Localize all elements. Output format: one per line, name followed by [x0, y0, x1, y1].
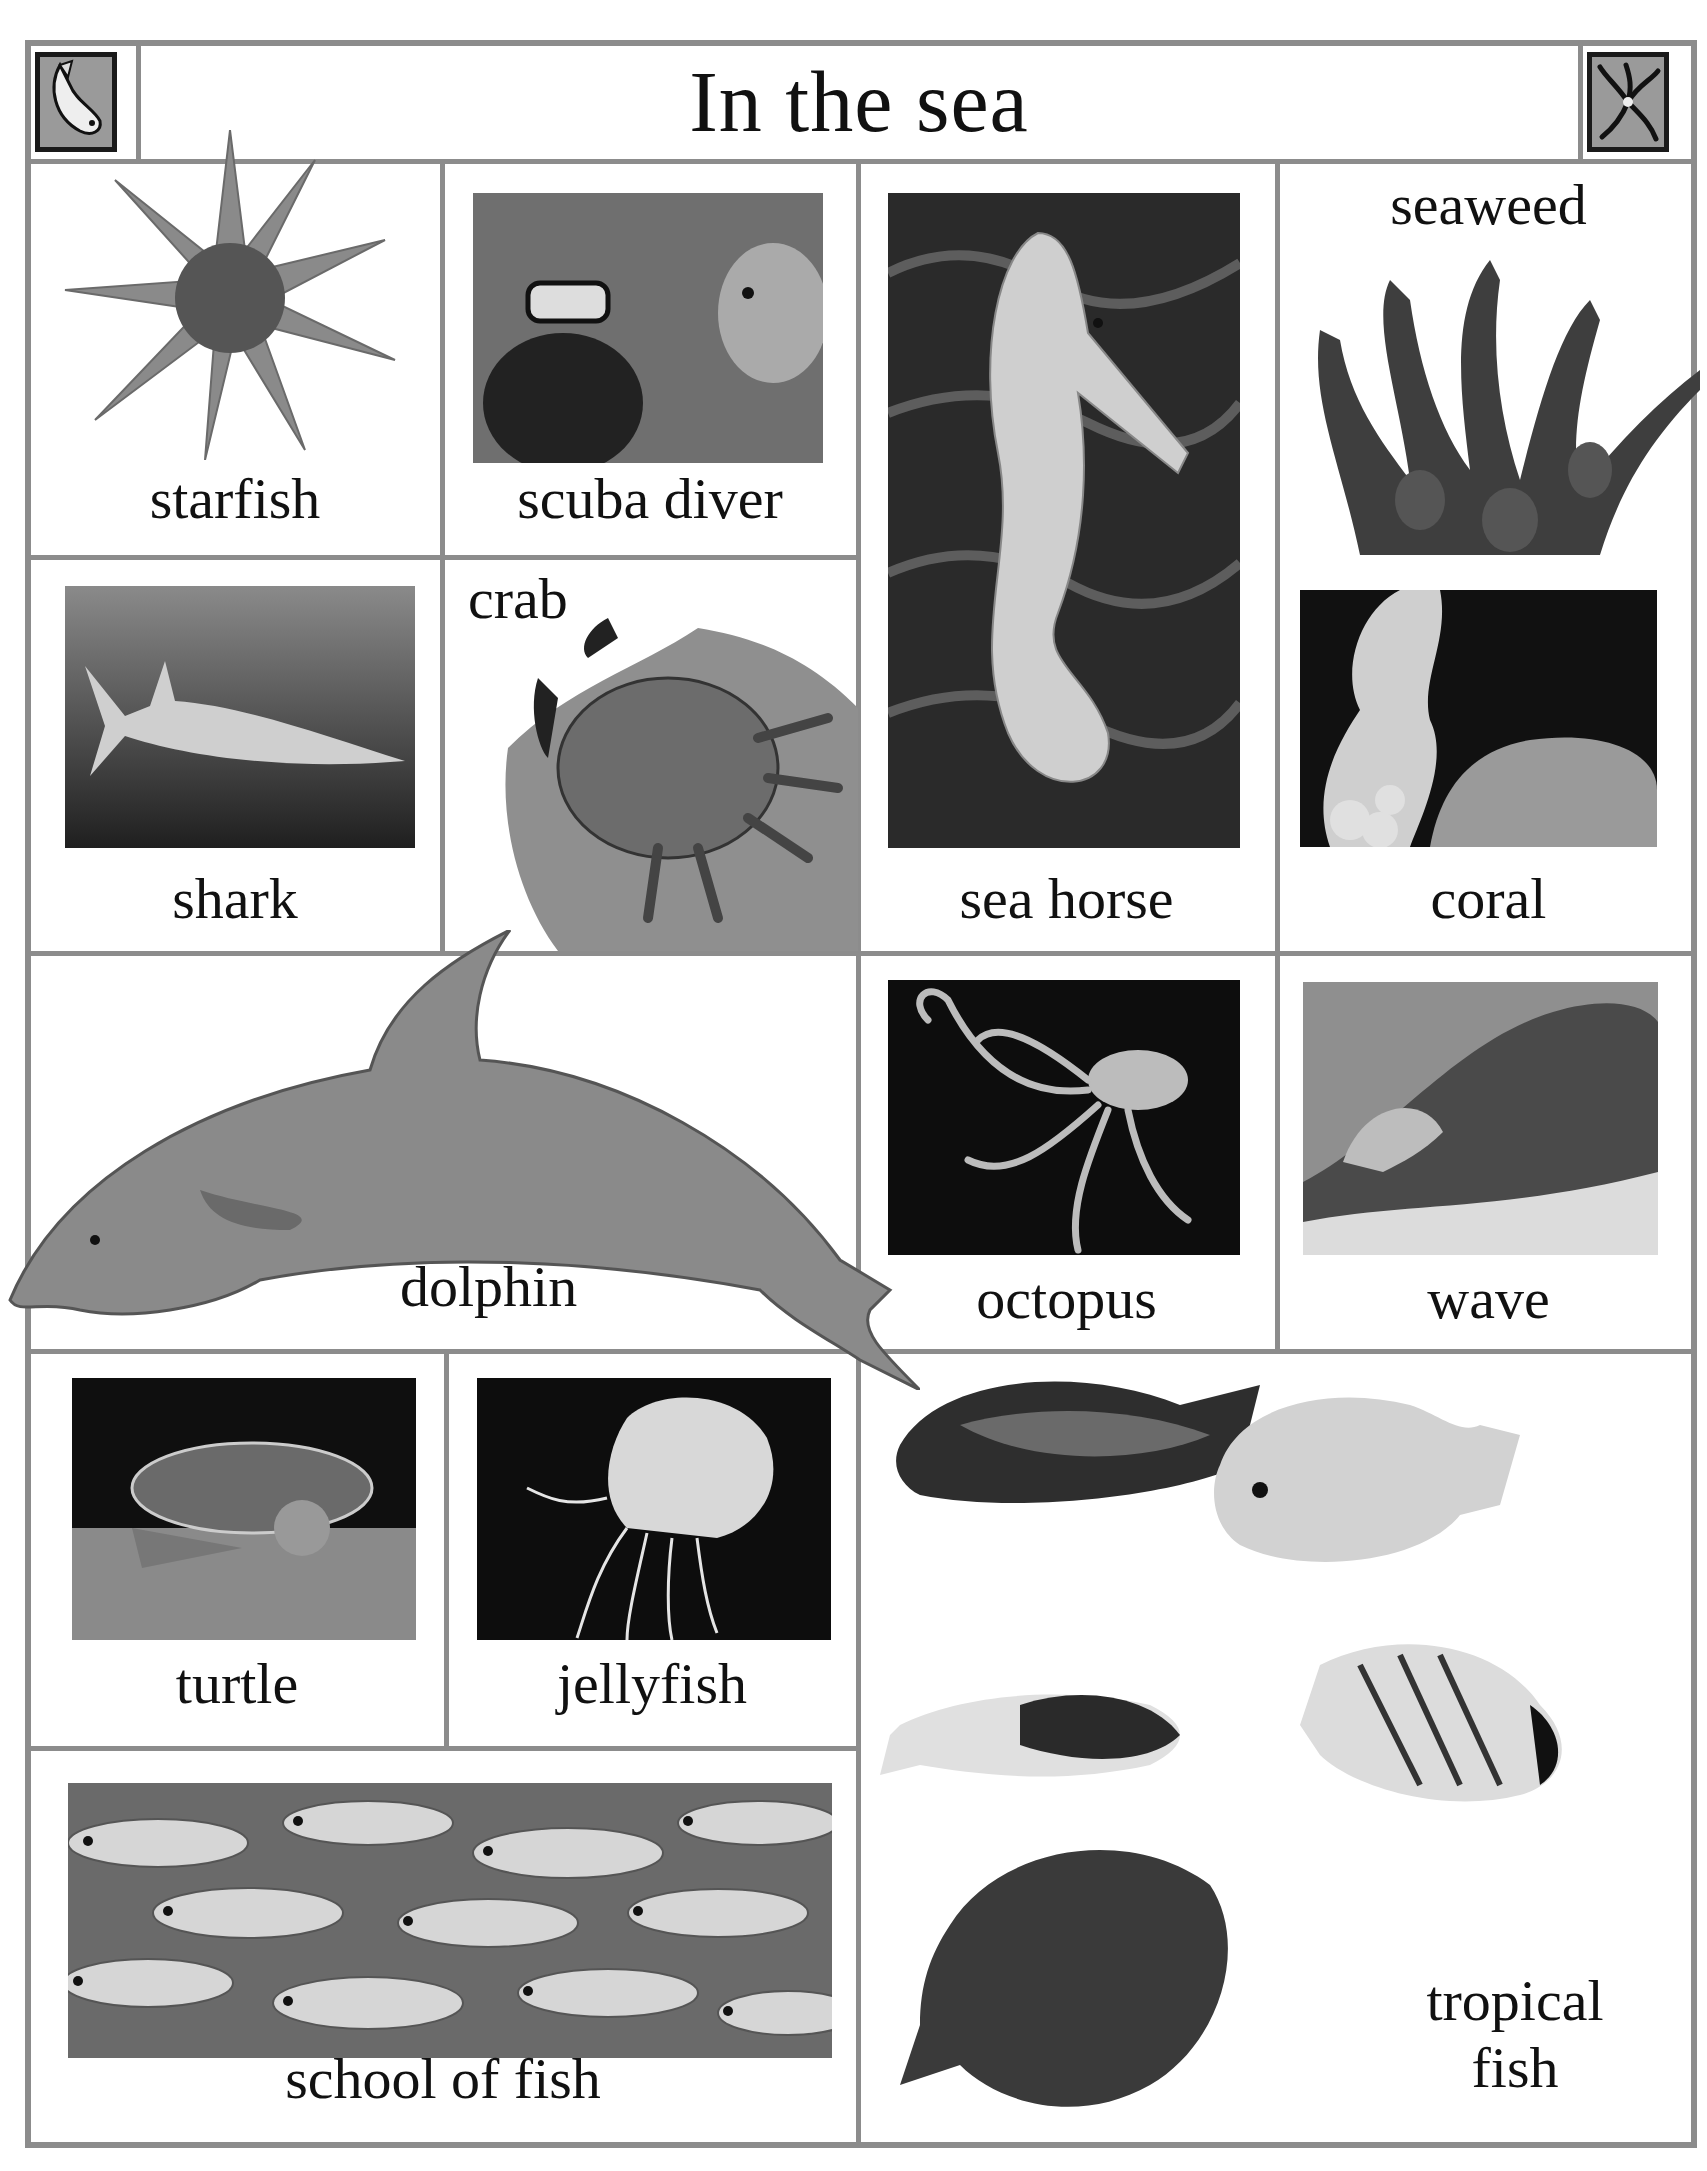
- dolphin-image: [0, 930, 920, 1390]
- turtle-photo: [72, 1378, 416, 1640]
- starfish-label: starfish: [30, 470, 440, 528]
- jellyfish-photo: [477, 1378, 831, 1640]
- sea-horse-photo: [888, 193, 1240, 848]
- sea-horse-label: sea horse: [858, 870, 1275, 928]
- seaweed-label: seaweed: [1280, 176, 1697, 234]
- brittle-star-icon: [1587, 52, 1669, 152]
- octopus-photo: [888, 980, 1240, 1255]
- school-of-fish-label: school of fish: [30, 2050, 856, 2108]
- school-of-fish-photo: [68, 1783, 832, 2058]
- turtle-label: turtle: [30, 1655, 444, 1713]
- scuba-diver-label: scuba diver: [444, 470, 856, 528]
- starfish-image: [55, 130, 405, 460]
- tropical-fish-label-line1: tropical: [1390, 1968, 1640, 2035]
- jellyfish-label: jellyfish: [448, 1655, 856, 1713]
- seaweed-image: [1300, 240, 1700, 555]
- coral-label: coral: [1280, 870, 1697, 928]
- tropical-fish-label: tropical fish: [1390, 1968, 1640, 2101]
- crab-image: [478, 598, 858, 951]
- row-divider-1-left: [25, 555, 858, 560]
- tropical-fish-label-line2: fish: [1390, 2035, 1640, 2102]
- coral-photo: [1300, 590, 1657, 847]
- shark-label: shark: [30, 870, 440, 928]
- wave-label: wave: [1280, 1270, 1697, 1328]
- scuba-diver-photo: [473, 193, 823, 463]
- octopus-label: octopus: [858, 1270, 1275, 1328]
- dolphin-label: dolphin: [400, 1258, 577, 1316]
- row-divider-4-left: [25, 1746, 858, 1751]
- shark-photo: [65, 586, 415, 848]
- wave-photo: [1303, 982, 1658, 1255]
- col-divider-3: [1275, 161, 1280, 1351]
